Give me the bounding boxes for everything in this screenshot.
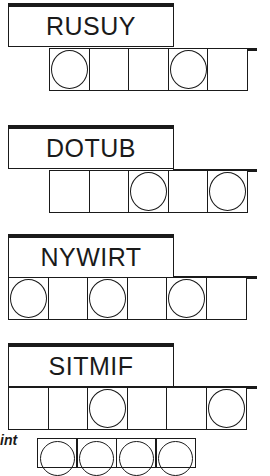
letter-cell-circled[interactable]: [207, 170, 248, 213]
final-answer-cells: [38, 438, 196, 468]
letter-cell-circled[interactable]: [168, 48, 209, 91]
letter-cell-circled[interactable]: [206, 387, 247, 430]
scrambled-word: RUSUY: [46, 12, 136, 41]
scrambled-word-box: SITMIF: [8, 343, 174, 387]
scrambled-word-box: DOTUB: [8, 125, 174, 169]
final-answer-cell[interactable]: [37, 438, 78, 468]
letter-cell[interactable]: [128, 48, 169, 91]
scrambled-word-box: NYWIRT: [8, 234, 174, 278]
letter-cell-circled[interactable]: [166, 277, 207, 320]
letter-cell[interactable]: [89, 48, 130, 91]
letter-cell[interactable]: [207, 48, 248, 91]
letter-cell[interactable]: [48, 277, 89, 320]
scrambled-word: DOTUB: [46, 134, 136, 163]
letter-cell[interactable]: [89, 170, 130, 213]
letter-cell[interactable]: [168, 170, 209, 213]
letter-cell-circled[interactable]: [87, 277, 128, 320]
letter-cell-circled[interactable]: [49, 48, 90, 91]
letter-cell-circled[interactable]: [128, 170, 169, 213]
hint-label: int: [0, 432, 17, 448]
letter-cell[interactable]: [48, 387, 89, 430]
scrambled-word-box: RUSUY: [8, 3, 174, 47]
letter-cell-circled[interactable]: [8, 277, 49, 320]
letter-cell[interactable]: [8, 387, 49, 430]
final-answer-cell[interactable]: [155, 438, 196, 468]
scrambled-word: NYWIRT: [40, 243, 141, 272]
scrambled-word: SITMIF: [49, 352, 134, 381]
final-answer-cell[interactable]: [116, 438, 157, 468]
letter-cell[interactable]: [49, 170, 90, 213]
letter-cell-circled[interactable]: [87, 387, 128, 430]
letter-cell[interactable]: [127, 387, 168, 430]
letter-cell[interactable]: [206, 277, 247, 320]
answer-cells: [8, 387, 247, 430]
answer-cells: [8, 277, 247, 320]
answer-cells: [49, 170, 248, 213]
letter-cell[interactable]: [127, 277, 168, 320]
letter-cell[interactable]: [166, 387, 207, 430]
answer-cells: [49, 48, 248, 91]
final-answer-cell[interactable]: [76, 438, 117, 468]
